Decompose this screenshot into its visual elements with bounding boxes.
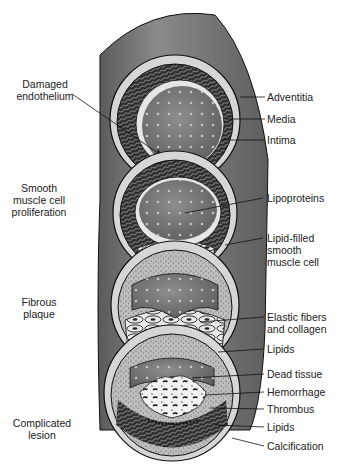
label-hemorrhage: Hemorrhage [267,386,325,398]
label-adventitia: Adventitia [267,91,313,103]
label-lipids-complicated: Lipids [267,421,294,433]
label-calcification: Calcification [267,440,324,452]
label-thrombus: Thrombus [267,403,314,415]
label-dead-tissue: Dead tissue [267,368,322,380]
label-complicated-lesion: Complicated lesion [10,417,74,441]
label-fibrous-plaque: Fibrous plaque [14,296,64,320]
label-intima: Intima [267,134,296,146]
label-media: Media [267,113,296,125]
label-damaged-endothelium: Damaged endothelium [10,78,80,102]
label-elastic-fibers-collagen: Elastic fibers and collagen [267,311,327,335]
label-smooth-muscle-proliferation: Smooth muscle cell proliferation [8,182,70,218]
atherosclerosis-diagram: Damaged endothelium Smooth muscle cell p… [0,0,338,469]
section-complicated-lesion [104,325,240,461]
label-lipoproteins: Lipoproteins [267,192,324,204]
label-lipids-fibrous: Lipids [267,343,294,355]
label-lipid-filled-smooth-muscle-cell: Lipid-filled smooth muscle cell [267,232,319,268]
